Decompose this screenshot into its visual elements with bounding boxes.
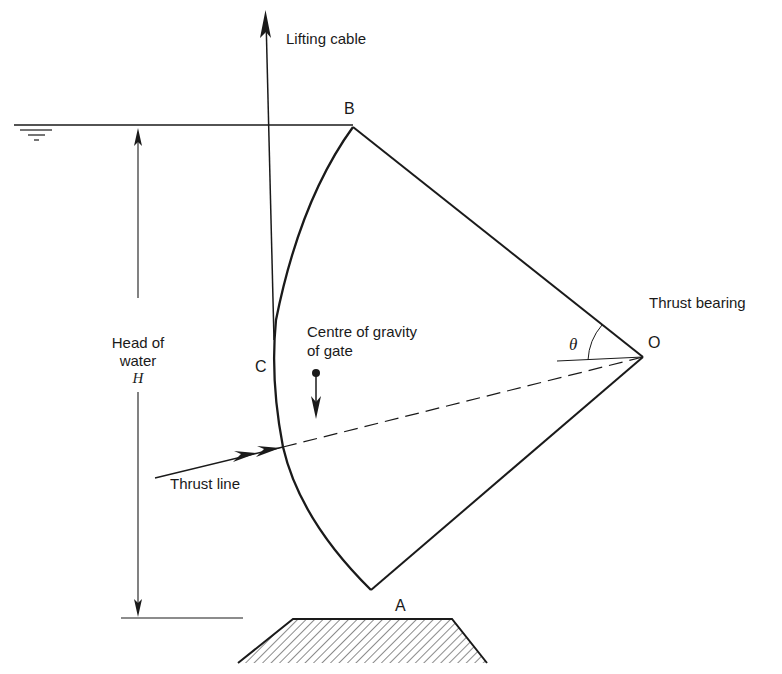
water-surface xyxy=(14,125,353,140)
cog-label-line2: of gate xyxy=(307,342,353,359)
cog-label-line1: Centre of gravity xyxy=(307,323,417,340)
centre-of-gravity-marker xyxy=(311,369,321,419)
head-label-line2: water xyxy=(98,352,178,369)
thrust-bearing-label: Thrust bearing xyxy=(649,294,746,311)
lifting-cable-label: Lifting cable xyxy=(286,30,366,47)
point-a-label: A xyxy=(395,597,406,614)
angle-arc xyxy=(588,325,602,360)
point-b-label: B xyxy=(344,100,355,117)
radial-arm-lower xyxy=(371,357,643,590)
lifting-cable xyxy=(260,10,274,340)
head-label-line1: Head of xyxy=(98,334,178,351)
point-c-label: C xyxy=(255,358,267,375)
point-o-label: O xyxy=(648,334,660,351)
angle-theta-label: θ xyxy=(569,336,577,353)
thrust-line-label: Thrust line xyxy=(170,475,240,492)
gate-sill xyxy=(238,619,487,663)
head-symbol-label: H xyxy=(98,370,178,387)
thrust-line-arrow xyxy=(155,446,283,478)
